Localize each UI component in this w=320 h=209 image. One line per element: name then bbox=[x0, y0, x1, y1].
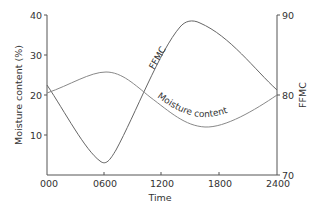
chart-container: 40 30 20 10 90 80 70 000 0600 1200 1800 … bbox=[0, 0, 320, 209]
y-tick-10: 10 bbox=[30, 130, 42, 141]
x-tick-0600: 0600 bbox=[93, 178, 117, 189]
x-tick-1200: 1200 bbox=[150, 178, 174, 189]
x-axis-title: Time bbox=[147, 192, 171, 203]
moisture-curve-label-text: Moisture content bbox=[156, 91, 229, 120]
y-tick-30: 30 bbox=[30, 50, 42, 61]
left-axis-title: Moisture content (%) bbox=[13, 45, 24, 145]
chart-svg: 40 30 20 10 90 80 70 000 0600 1200 1800 … bbox=[0, 0, 320, 209]
x-tick-1800: 1800 bbox=[208, 178, 232, 189]
right-y-ticks: 90 80 70 bbox=[277, 10, 294, 181]
y2-tick-90: 90 bbox=[282, 10, 294, 21]
y2-tick-80: 80 bbox=[282, 90, 294, 101]
ffmc-curve-label: FFMC bbox=[147, 45, 168, 71]
moisture-curve-label: Moisture content bbox=[156, 91, 229, 120]
left-y-ticks: 40 30 20 10 bbox=[30, 10, 47, 141]
x-tick-000: 000 bbox=[40, 178, 58, 189]
right-axis-title: FFMC bbox=[297, 82, 308, 108]
y-tick-40: 40 bbox=[30, 10, 42, 21]
y-tick-20: 20 bbox=[30, 90, 42, 101]
x-tick-2400: 2400 bbox=[266, 178, 290, 189]
